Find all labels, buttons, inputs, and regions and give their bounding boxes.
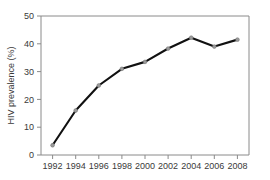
y-tick-label-40: 40 <box>24 39 34 49</box>
data-point-2006 <box>212 45 216 49</box>
y-tick-label-10: 10 <box>24 122 34 132</box>
x-axis-ticks <box>53 155 238 159</box>
data-point-1996 <box>97 84 101 88</box>
x-tick-label-2006: 2006 <box>204 161 224 171</box>
y-tick-label-30: 30 <box>24 67 34 77</box>
hiv-prevalence-line-chart: 0 10 20 30 40 50 1992 1994 1996 1998 200… <box>0 0 270 180</box>
data-point-2002 <box>166 47 170 51</box>
data-point-1992 <box>51 143 55 147</box>
x-tick-label-2004: 2004 <box>181 161 201 171</box>
x-tick-label-1992: 1992 <box>43 161 63 171</box>
y-axis-tick-labels: 0 10 20 30 40 50 <box>24 11 34 160</box>
x-tick-label-1994: 1994 <box>66 161 86 171</box>
y-tick-label-20: 20 <box>24 95 34 105</box>
data-point-1998 <box>120 67 124 71</box>
x-tick-label-1996: 1996 <box>89 161 109 171</box>
x-tick-label-2000: 2000 <box>135 161 155 171</box>
x-axis-tick-labels: 1992 1994 1996 1998 2000 2002 2004 2006 … <box>43 161 248 171</box>
y-axis-title-label: HIV prevalence (%) <box>6 46 16 124</box>
x-tick-label-1998: 1998 <box>112 161 132 171</box>
data-point-1994 <box>74 109 78 113</box>
x-tick-label-2002: 2002 <box>158 161 178 171</box>
y-axis-title: HIV prevalence (%) <box>6 46 16 124</box>
x-tick-label-2008: 2008 <box>227 161 247 171</box>
plot-background <box>41 16 249 155</box>
data-point-2008 <box>236 38 240 42</box>
y-tick-label-0: 0 <box>29 150 34 160</box>
data-point-2000 <box>143 60 147 64</box>
y-axis-ticks <box>37 16 41 155</box>
y-tick-label-50: 50 <box>24 11 34 21</box>
chart-figure: 0 10 20 30 40 50 1992 1994 1996 1998 200… <box>0 0 270 180</box>
data-point-2004 <box>189 36 193 40</box>
